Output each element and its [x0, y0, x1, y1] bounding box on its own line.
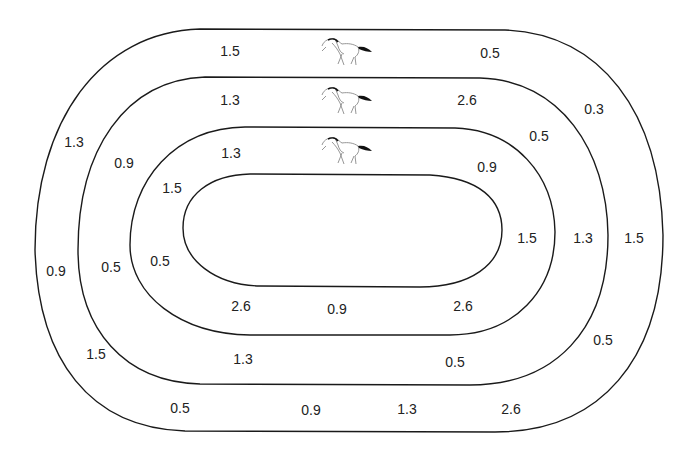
distance-label: 0.5 — [445, 354, 464, 370]
distance-label: 2.6 — [457, 92, 476, 108]
horse-icon — [318, 34, 376, 70]
distance-label: 0.3 — [584, 101, 603, 117]
distance-label: 0.9 — [327, 301, 346, 317]
distance-label: 0.5 — [101, 259, 120, 275]
distance-label: 0.9 — [301, 402, 320, 418]
distance-label: 1.5 — [624, 230, 643, 246]
horse-icon — [318, 83, 376, 119]
distance-label: 2.6 — [501, 401, 520, 417]
distance-label: 1.5 — [86, 346, 105, 362]
distance-label: 1.5 — [220, 43, 239, 59]
distance-label: 2.6 — [231, 298, 250, 314]
distance-label: 1.5 — [517, 230, 536, 246]
distance-label: 0.9 — [46, 263, 65, 279]
distance-label: 1.5 — [162, 180, 181, 196]
distance-label: 1.3 — [221, 145, 240, 161]
distance-label: 0.5 — [480, 45, 499, 61]
distance-label: 1.3 — [573, 230, 592, 246]
distance-label: 1.3 — [233, 351, 252, 367]
distance-label: 0.5 — [593, 332, 612, 348]
racetrack-diagram: 1.5 0.5 0.3 1.5 0.5 2.6 1.3 0.9 0.5 1.5 … — [0, 0, 695, 460]
distance-label: 1.3 — [397, 401, 416, 417]
distance-label: 1.3 — [220, 92, 239, 108]
distance-label: 2.6 — [453, 298, 472, 314]
distance-label: 0.9 — [477, 159, 496, 175]
distance-label: 0.5 — [529, 128, 548, 144]
distance-label: 0.5 — [150, 253, 169, 269]
track-boundary-inner — [183, 174, 502, 287]
distance-label: 0.9 — [114, 155, 133, 171]
distance-label: 0.5 — [170, 400, 189, 416]
horse-icon — [318, 133, 376, 169]
distance-label: 1.3 — [64, 134, 83, 150]
